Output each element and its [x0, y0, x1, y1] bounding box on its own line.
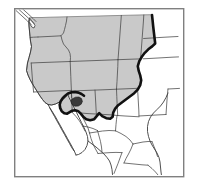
map-canvas: [0, 0, 198, 190]
distribution-map-figure: [0, 0, 198, 190]
population-locality-spot: [71, 97, 82, 106]
